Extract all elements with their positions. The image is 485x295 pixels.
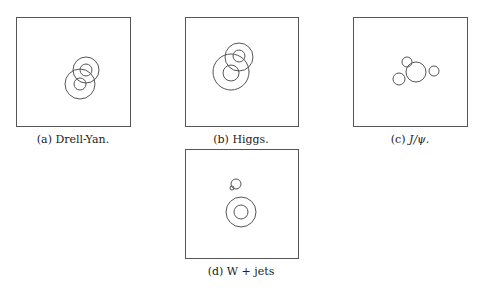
panel-frame [186,18,299,127]
circle-shape [393,73,405,85]
circle-shape [223,65,239,81]
caption-a: (a) Drell-Yan. [37,133,109,146]
circle-shape [402,57,412,67]
circle-shape [74,78,86,90]
caption-b-label: (b) [213,133,229,146]
caption-b-title: Higgs. [232,133,268,146]
circle-shape [231,179,241,189]
caption-d: (d) W + jets [208,265,275,278]
caption-d-title: W + jets [227,265,275,278]
panel-b [186,18,299,127]
caption-c: (c) J/ψ. [391,133,430,146]
caption-a-title: Drell-Yan. [55,133,109,146]
circle-shape [406,62,426,82]
circle-shape [429,66,439,76]
panel-frame [186,150,299,259]
circle-shape [234,205,248,219]
circle-shape [213,54,249,90]
circle-shape [65,69,95,99]
caption-d-label: (d) [208,265,224,278]
caption-c-title: J/ψ. [409,133,429,146]
panel-frame [354,18,468,127]
circle-shape [225,43,253,71]
caption-b: (b) Higgs. [213,133,268,146]
caption-c-label: (c) [391,133,406,146]
figure-canvas [0,0,485,295]
panel-a [17,18,131,127]
panel-d [186,150,299,259]
caption-a-label: (a) [37,133,52,146]
panel-c [354,18,468,127]
circle-shape [226,197,256,227]
